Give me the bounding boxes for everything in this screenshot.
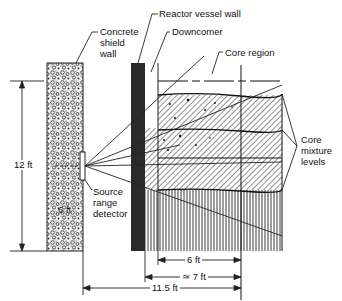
- label-line: shield: [100, 37, 139, 48]
- core-mixture-levels-label: Core mixture levels: [301, 134, 332, 167]
- source-range-detector-label: Source range detector: [93, 186, 127, 219]
- downcomer: [145, 63, 158, 251]
- detector-height-label: 6 ft: [56, 205, 73, 215]
- height-dimension-label: 12 ft: [12, 160, 35, 170]
- label-line: range: [93, 197, 127, 208]
- label-line: levels: [301, 156, 332, 167]
- label-line: detector: [93, 208, 127, 219]
- reactor-vessel-wall-label: Reactor vessel wall: [159, 8, 241, 19]
- label-line: Source: [93, 186, 127, 197]
- reactor-cross-section-diagram: Concrete shield wall Reactor vessel wall…: [0, 0, 342, 301]
- core-region: [158, 65, 282, 300]
- concrete-shield-wall-label: Concrete shield wall: [100, 26, 139, 59]
- core-radius-label: 6 ft: [185, 255, 202, 265]
- vessel-to-center-label: ≃ 7 ft: [180, 272, 208, 282]
- label-line: mixture: [301, 145, 332, 156]
- downcomer-label: Downcomer: [172, 26, 223, 37]
- reactor-vessel-wall: [131, 63, 145, 251]
- label-line: wall: [100, 48, 139, 59]
- diagram-canvas: [0, 0, 342, 301]
- concrete-shield-wall: [47, 63, 83, 251]
- label-line: Core: [301, 134, 332, 145]
- label-line: Concrete: [100, 26, 139, 37]
- core-region-label: Core region: [225, 47, 275, 58]
- detector-to-center-label: 11.5 ft: [150, 283, 180, 293]
